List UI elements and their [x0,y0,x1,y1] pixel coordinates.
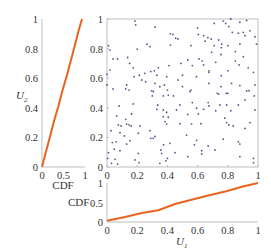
scatter-point [153,70,155,72]
scatter-point [214,149,216,151]
y-tick-label: 0.2 [90,132,103,143]
scatter-point [151,90,153,92]
y-tick-label: 0.8 [90,44,103,55]
scatter-point [108,152,110,154]
scatter-point [189,91,191,93]
scatter-point [117,163,119,165]
scatter-point [242,56,244,58]
scatter-point [246,20,248,22]
scatter-point [149,46,151,48]
scatter-point [129,140,131,142]
scatter-point [154,26,156,28]
bottom-cdf-curve [107,183,258,221]
scatter-point [198,58,200,60]
scatter-point [165,160,167,162]
y-tick-label: 1 [33,14,38,25]
scatter-point [247,67,249,69]
scatter-point [230,110,232,112]
scatter-point [129,63,131,65]
scatter-point [213,45,215,47]
scatter-point [234,60,236,62]
scatter-point [253,71,255,73]
x-tick-label: 0.6 [191,170,204,181]
scatter-point [118,105,120,107]
scatter-point [106,73,108,75]
scatter-point [186,134,188,136]
y-tick-label: 0 [98,162,103,173]
scatter-point [239,43,241,45]
scatter-point [249,122,251,124]
scatter-point [227,70,229,72]
scatter-point [231,82,233,84]
scatter-frame [107,19,258,167]
scatter-point [237,104,239,106]
bottom-xlabel: U1 [176,235,187,250]
scatter-point [253,162,255,164]
x-tick-label: 0 [104,170,109,181]
scatter-point [169,142,171,144]
scatter-point [196,107,198,109]
scatter-point [191,102,193,104]
scatter-point [130,125,132,127]
scatter-point [249,30,251,32]
scatter-point [203,35,205,37]
scatter-point [106,84,108,86]
copula-figure: 00.20.40.60.81 00.20.40.60.81 00.20.40.6… [0,0,271,252]
scatter-point [167,89,169,91]
scatter-point [244,128,246,130]
scatter-point [114,158,116,160]
x-tick-label: 0.4 [161,225,175,236]
scatter-point [244,99,246,101]
scatter-point [137,152,139,154]
scatter-point [215,61,217,63]
scatter-point [218,93,220,95]
scatter-point [231,31,233,33]
y-tick-label: 1 [98,178,103,189]
scatter-point [170,33,172,35]
scatter-point [207,145,209,147]
scatter-point [196,139,198,141]
scatter-point [197,113,199,115]
scatter-point [174,152,176,154]
scatter-point [170,44,172,46]
scatter-point [191,123,193,125]
scatter-point [220,75,222,77]
scatter-point [228,26,230,28]
scatter-point [207,37,209,39]
scatter-point [126,84,128,86]
scatter-point [179,104,181,106]
left-cdf-curve [42,19,82,167]
scatter-point [125,88,127,90]
scatter-point [145,81,147,83]
scatter-point [111,142,113,144]
scatter-point [131,113,133,115]
scatter-point [167,94,169,96]
y-tick-label: 0 [33,162,38,173]
scatter-point [150,137,152,139]
scatter-point [187,59,189,61]
scatter-point [201,60,203,62]
scatter-point [144,72,146,74]
scatter-point [141,79,143,81]
scatter-point [244,35,246,37]
scatter-point [132,67,134,69]
scatter-point [254,109,256,111]
scatter-point [242,31,244,33]
scatter-point [109,69,111,71]
scatter-point [239,85,241,87]
scatter-point [215,110,217,112]
x-tick-label: 0.2 [131,170,144,181]
scatter-point [117,58,119,60]
left-y-ticks: 00.20.40.60.81 [25,14,39,173]
x-tick-label: 1 [82,170,87,181]
scatter-point [226,104,228,106]
x-tick-label: 0.8 [221,170,234,181]
scatter-point [112,88,114,90]
scatter-point [138,74,140,76]
scatter-point [182,86,184,88]
scatter-point [248,90,250,92]
y-tick-label: 0.8 [25,44,38,55]
scatter-point [115,141,117,143]
scatter-point [179,123,181,125]
scatter-point [201,153,203,155]
